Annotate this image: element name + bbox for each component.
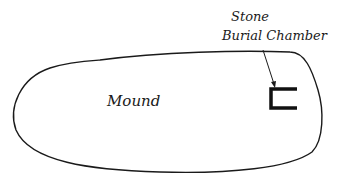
pointer-arrow-icon [263, 50, 276, 88]
mound-label: Mound [106, 92, 160, 110]
mound-diagram: Mound Stone Burial Chamber [0, 0, 358, 179]
chamber-label-line1: Stone [231, 9, 269, 24]
chamber-label-line2: Burial Chamber [221, 28, 328, 43]
mound-outline [14, 51, 322, 172]
burial-chamber-icon [271, 89, 297, 108]
